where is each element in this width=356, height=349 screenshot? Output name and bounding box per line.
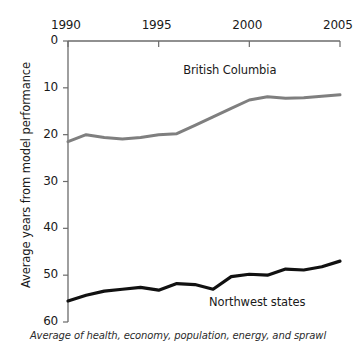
series-label-british-columbia: British Columbia bbox=[183, 63, 276, 77]
series-group bbox=[68, 95, 340, 301]
series-label-northwest-states: Northwest states bbox=[209, 295, 305, 309]
chart-caption: Average of health, economy, population, … bbox=[0, 330, 356, 341]
y-tick-label: 60 bbox=[24, 314, 58, 328]
x-tick-label: 2005 bbox=[323, 18, 353, 32]
y-tick-label: 30 bbox=[24, 174, 58, 188]
chart-container: Average years from model performance 199… bbox=[0, 0, 356, 349]
series-line-british-columbia bbox=[68, 95, 340, 142]
x-tick-label: 1990 bbox=[51, 18, 81, 32]
x-tick-label: 1995 bbox=[142, 18, 172, 32]
y-tick-label: 50 bbox=[24, 267, 58, 281]
y-tick-label: 20 bbox=[24, 127, 58, 141]
y-tick-label: 10 bbox=[24, 80, 58, 94]
y-axis-ticks bbox=[63, 41, 68, 322]
y-tick-label: 40 bbox=[24, 220, 58, 234]
x-tick-label: 2000 bbox=[232, 18, 262, 32]
y-tick-label: 0 bbox=[24, 33, 58, 47]
axis-group bbox=[63, 41, 340, 322]
x-axis-ticks bbox=[68, 41, 340, 47]
